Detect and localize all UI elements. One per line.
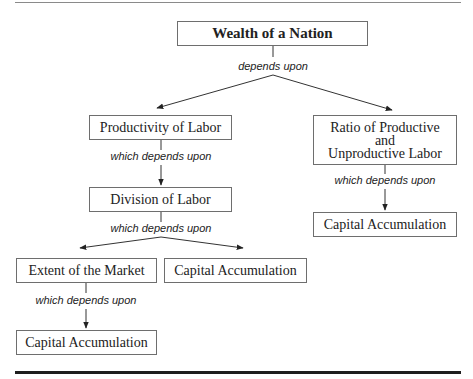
node-capital-accumulation-middle: Capital Accumulation [164,258,307,283]
bottom-rule [15,371,461,374]
arrow-wealth-to-productivity [157,75,273,108]
node-label: Ratio of Productive and Unproductive Lab… [328,121,442,160]
edge-label-productivity: which depends upon [109,150,214,162]
node-capital-accumulation-right: Capital Accumulation [313,212,457,237]
node-capital-accumulation-bottom: Capital Accumulation [16,330,157,355]
node-wealth-of-a-nation: Wealth of a Nation [177,21,368,46]
node-productivity-of-labor: Productivity of Labor [89,115,232,140]
node-extent-of-the-market: Extent of the Market [16,258,157,283]
edge-label-extent: which depends upon [34,294,139,306]
arrow-wealth-to-ratio [273,75,392,110]
node-label: Capital Accumulation [174,264,296,277]
node-ratio-of-productive-labor: Ratio of Productive and Unproductive Lab… [313,115,457,165]
edge-label-division: which depends upon [109,222,214,234]
node-label: Capital Accumulation [25,336,147,349]
edge-label-ratio: which depends upon [333,174,438,186]
connector-lines [0,0,473,379]
node-label: Productivity of Labor [100,121,221,134]
node-label: Capital Accumulation [324,218,446,231]
diagram-canvas: Wealth of a Nation depends upon Producti… [0,0,473,379]
arrow-division-to-extent [80,237,161,248]
arrow-division-to-capital [161,237,243,248]
node-division-of-labor: Division of Labor [89,187,232,212]
node-label: Extent of the Market [28,264,144,277]
edge-label-depends-upon: depends upon [236,60,310,72]
node-label: Division of Labor [110,193,210,206]
node-label: Wealth of a Nation [212,27,332,40]
